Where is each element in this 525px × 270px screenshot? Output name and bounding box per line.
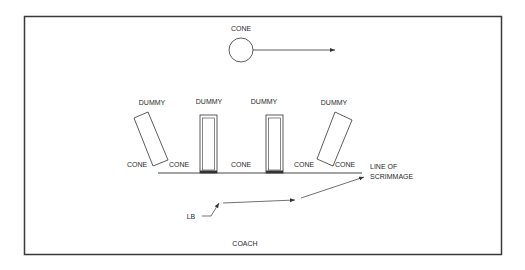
dummy-icon-1	[134, 112, 168, 166]
cone-label-5: CONE	[335, 161, 356, 168]
scrimmage-label-line2: SCRIMMAGE	[370, 173, 414, 180]
cone-label-3: CONE	[231, 161, 252, 168]
dummy-icon-2	[200, 115, 217, 173]
cone-icon	[229, 38, 253, 62]
lb-path-2	[223, 200, 295, 203]
dummy-label-2: DUMMY	[196, 98, 223, 105]
top-cone-label: CONE	[231, 25, 252, 32]
scrimmage-label-line1: LINE OF	[370, 163, 397, 170]
lb-label: LB	[187, 213, 196, 220]
field-border	[25, 17, 502, 255]
drill-diagram: CONE DUMMY DUMMY DUMMY DUMMY CONE CONE C…	[0, 0, 525, 270]
dummy-label-4: DUMMY	[321, 99, 348, 106]
cone-label-1: CONE	[127, 161, 148, 168]
dummy-icon-3	[266, 115, 283, 173]
lb-path-1	[202, 203, 219, 216]
dummy-label-3: DUMMY	[251, 98, 278, 105]
cone-label-2: CONE	[169, 161, 190, 168]
dummy-icon-4	[317, 112, 352, 166]
dummy-label-1: DUMMY	[139, 99, 166, 106]
lb-path-3	[301, 177, 364, 198]
top-cone: CONE	[229, 25, 335, 62]
cone-label-4: CONE	[294, 161, 315, 168]
coach-label: COACH	[232, 240, 257, 247]
